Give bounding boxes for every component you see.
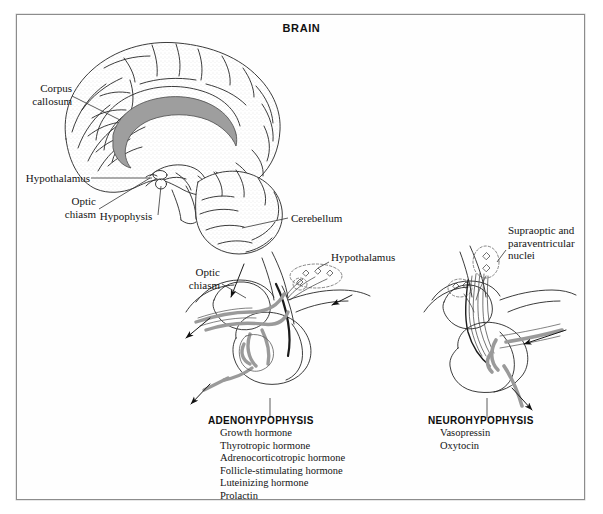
label-optic-chiasm: Optic chiasm	[34, 195, 96, 220]
label-corpus-callosum: Corpus callosum	[14, 82, 72, 107]
label-cerebellum: Cerebellum	[291, 212, 361, 225]
hormone-item: Adrenocorticotropic hormone	[220, 452, 345, 465]
label-hypothalamus: Hypothalamus	[6, 172, 90, 185]
hormone-item: Vasopressin	[440, 427, 490, 440]
hormone-item: Thyrotropic hormone	[220, 440, 345, 453]
hormone-item: Growth hormone	[220, 427, 345, 440]
hormone-item: Oxytocin	[440, 440, 490, 453]
label-left-hypothalamus: Hypothalamus	[331, 251, 411, 264]
label-hypophysis: Hypophysis	[92, 210, 160, 223]
label-supraoptic-paraventricular-nuclei: Supraoptic and paraventricular nuclei	[508, 224, 598, 262]
heading-neurohypophysis: NEUROHYPOPHYSIS	[428, 415, 534, 426]
hormone-item: Follicle-stimulating hormone	[220, 465, 345, 478]
page-title: BRAIN	[0, 22, 603, 34]
hormone-item: Luteinizing hormone	[220, 477, 345, 490]
label-left-optic-chiasm: Optic chiasm	[176, 266, 220, 291]
neurohypophysis-hormone-list: VasopressinOxytocin	[440, 427, 490, 452]
hormone-item: Prolactin	[220, 490, 345, 503]
anatomy-figure: BRAIN	[0, 0, 603, 514]
heading-adenohypophysis: ADENOHYPOPHYSIS	[208, 415, 314, 426]
adenohypophysis-hormone-list: Growth hormoneThyrotropic hormoneAdrenoc…	[220, 427, 345, 503]
